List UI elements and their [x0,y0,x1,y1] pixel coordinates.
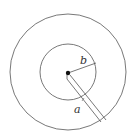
center-dot [66,71,70,75]
radial-slot [67,75,106,122]
concentric-circles-diagram: b a [0,0,135,140]
label-b: b [80,54,87,67]
label-a: a [74,103,81,116]
